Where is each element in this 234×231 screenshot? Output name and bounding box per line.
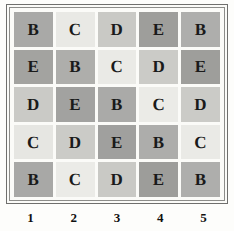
x-axis-tick-labels: 12345 xyxy=(9,206,225,228)
grid-cell: D xyxy=(56,125,95,160)
grid-cell: C xyxy=(14,125,53,160)
grid-cell: B xyxy=(14,162,53,197)
grid-cell: E xyxy=(181,50,220,85)
grid-cell: E xyxy=(56,87,95,122)
grid-cell: D xyxy=(14,87,53,122)
grid-cell: D xyxy=(98,12,137,47)
grid-cell: B xyxy=(181,162,220,197)
grid-cell: C xyxy=(181,125,220,160)
x-tick-label-2: 2 xyxy=(52,211,95,224)
plot-inner-frame: BCDEBEBCDEDEBCDCDEBCBCDEB xyxy=(9,7,225,201)
x-tick-label-4: 4 xyxy=(139,211,182,224)
grid-cell: B xyxy=(14,12,53,47)
grid-cell: E xyxy=(139,12,178,47)
latin-square-figure: BCDEBEBCDEDEBCDCDEBCBCDEB 12345 xyxy=(0,0,234,231)
x-tick-label-3: 3 xyxy=(95,211,138,224)
grid-cell: D xyxy=(98,162,137,197)
grid-cell: C xyxy=(98,50,137,85)
grid-cell: D xyxy=(181,87,220,122)
x-tick-label-1: 1 xyxy=(9,211,52,224)
grid-cell: B xyxy=(181,12,220,47)
grid-cell: C xyxy=(56,162,95,197)
grid-cell: E xyxy=(98,125,137,160)
plot-frame: BCDEBEBCDEDEBCDCDEBCBCDEB xyxy=(6,4,228,204)
grid-cell: B xyxy=(139,125,178,160)
grid-cell: C xyxy=(139,87,178,122)
grid-cell: D xyxy=(139,50,178,85)
grid: BCDEBEBCDEDEBCDCDEBCBCDEB xyxy=(10,8,224,200)
x-tick-label-5: 5 xyxy=(182,211,225,224)
grid-cell: B xyxy=(56,50,95,85)
grid-cell: B xyxy=(98,87,137,122)
grid-cell: E xyxy=(139,162,178,197)
grid-cell: C xyxy=(56,12,95,47)
grid-cell: E xyxy=(14,50,53,85)
